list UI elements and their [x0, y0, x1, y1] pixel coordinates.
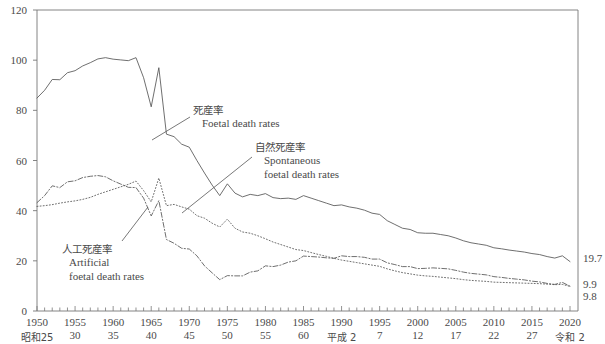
x-era-label-7: 60: [298, 329, 309, 341]
y-tick-0: 0: [0, 305, 27, 317]
x-tick-label-2005: 2005: [445, 316, 467, 328]
annotation-spontaneous-death-rates: 自然死産率 Spontaneous foetal death rates: [255, 141, 339, 182]
annotation-spontaneous-en-1: Spontaneous: [255, 154, 339, 168]
foetal-death-rate-chart: 120 100 80 60 40 20 0 1950昭和251955301960…: [0, 0, 605, 344]
x-tick-label-1995: 1995: [369, 316, 391, 328]
x-tick-label-1955: 1955: [64, 316, 86, 328]
end-label-artificial: 9.9: [583, 278, 597, 290]
annotation-artificial-death-rates: 人工死産率 Artificial foetal death rates: [62, 243, 144, 284]
x-tick-label-2000: 2000: [407, 316, 429, 328]
annotation-foetal-jp: 死産率: [193, 104, 280, 117]
y-tick-60: 60: [0, 155, 27, 167]
annotation-foetal-death-rates: 死産率 Foetal death rates: [193, 104, 280, 131]
x-era-label-13: 27: [526, 329, 537, 341]
x-tick-label-1950: 1950: [26, 316, 48, 328]
x-era-label-4: 45: [184, 329, 195, 341]
y-tick-100: 100: [0, 54, 27, 66]
end-label-spontaneous: 9.8: [583, 290, 597, 302]
x-era-label-0: 昭和25: [21, 329, 54, 344]
x-era-label-6: 55: [260, 329, 271, 341]
annotation-spontaneous-jp: 自然死産率: [255, 141, 339, 154]
x-tick-label-1980: 1980: [254, 316, 276, 328]
annotation-foetal-en-1: Foetal death rates: [193, 117, 280, 131]
end-label-foetal: 19.7: [583, 252, 602, 264]
x-tick-label-2015: 2015: [521, 316, 543, 328]
x-era-label-10: 12: [412, 329, 423, 341]
y-tick-20: 20: [0, 255, 27, 267]
annotation-artificial-en-2: foetal death rates: [62, 270, 144, 284]
leader-spontaneous: [182, 157, 252, 213]
x-tick-label-1970: 1970: [178, 316, 200, 328]
x-tick-label-2010: 2010: [483, 316, 505, 328]
x-era-label-11: 17: [450, 329, 461, 341]
x-era-label-12: 22: [488, 329, 499, 341]
leader-foetal: [152, 117, 190, 140]
x-tick-label-1985: 1985: [293, 316, 315, 328]
x-era-label-9: 7: [377, 329, 383, 341]
x-tick-label-1975: 1975: [216, 316, 238, 328]
x-era-label-3: 40: [146, 329, 157, 341]
x-era-label-14: 令和 2: [555, 329, 585, 344]
x-era-label-5: 50: [222, 329, 233, 341]
x-tick-label-1960: 1960: [102, 316, 124, 328]
leader-artificial: [122, 207, 148, 241]
x-tick-label-2020: 2020: [559, 316, 581, 328]
y-tick-80: 80: [0, 104, 27, 116]
annotation-leader-lines: [122, 117, 252, 241]
x-era-label-8: 平成 2: [327, 329, 357, 344]
x-tick-label-1990: 1990: [331, 316, 353, 328]
annotation-spontaneous-en-2: foetal death rates: [255, 168, 339, 182]
x-era-label-1: 30: [70, 329, 81, 341]
y-tick-120: 120: [0, 4, 27, 16]
x-era-label-2: 35: [108, 329, 119, 341]
annotation-artificial-en-1: Artificial: [62, 256, 144, 270]
y-tick-40: 40: [0, 205, 27, 217]
annotation-artificial-jp: 人工死産率: [62, 243, 144, 256]
x-tick-label-1965: 1965: [140, 316, 162, 328]
